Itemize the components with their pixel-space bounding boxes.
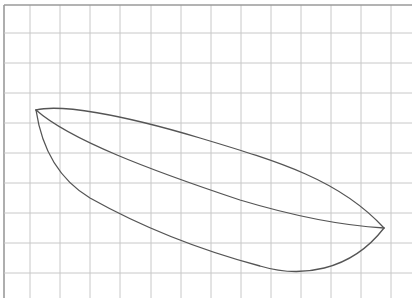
grid-lines — [4, 5, 412, 298]
grid-sketch-canvas — [0, 0, 412, 298]
shape-lower-edge — [36, 110, 384, 271]
leaf-shape-sketch — [36, 108, 384, 271]
shape-middle-diagonal — [36, 110, 384, 228]
shape-upper-edge — [36, 108, 384, 228]
